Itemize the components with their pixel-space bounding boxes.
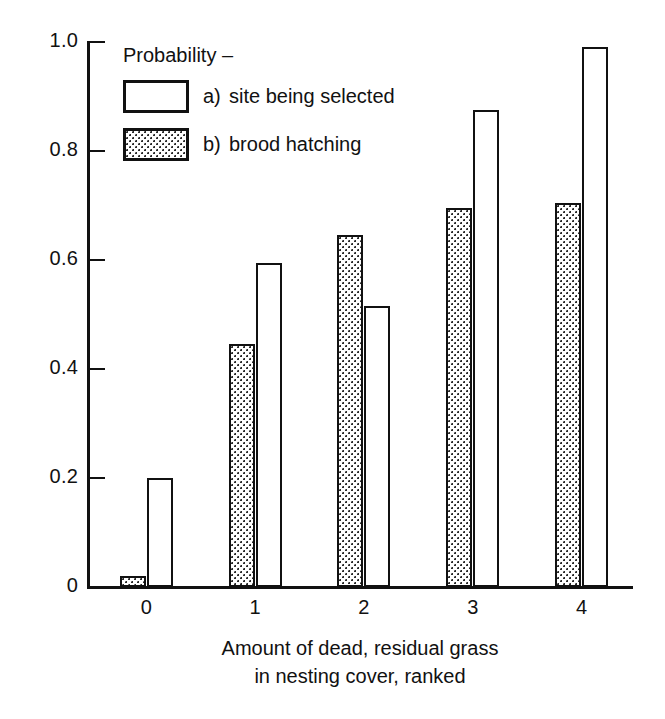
legend-swatch-stippled-box [123, 128, 189, 161]
y-tick-label: 0.8 [0, 138, 78, 161]
bar-site-being-selected-1 [256, 263, 282, 587]
y-tick-label: 0.2 [0, 465, 78, 488]
x-tick-label: 4 [552, 596, 612, 619]
bar-brood-hatching-1 [229, 344, 255, 587]
bar-brood-hatching-4 [555, 203, 581, 587]
x-tick-label: 2 [334, 596, 394, 619]
y-tick-label: 0.4 [0, 356, 78, 379]
chart-legend: Probability – a)site being selected b)br… [123, 44, 453, 174]
legend-text-b: brood hatching [229, 133, 361, 155]
bar-brood-hatching-3 [446, 208, 472, 587]
y-tick-label: 0 [0, 574, 78, 597]
legend-label-site-being-selected: a)site being selected [203, 85, 395, 108]
x-tick-label: 1 [225, 596, 285, 619]
legend-entry-brood-hatching: b)brood hatching [123, 126, 453, 162]
x-axis-label-line2: in nesting cover, ranked [88, 662, 632, 690]
legend-text-a: site being selected [229, 85, 395, 107]
bar-brood-hatching-0 [120, 576, 146, 587]
bar-site-being-selected-3 [473, 110, 499, 587]
bar-site-being-selected-2 [364, 306, 390, 587]
y-tick-label: 0.6 [0, 247, 78, 270]
legend-label-brood-hatching: b)brood hatching [203, 133, 361, 156]
bar-site-being-selected-0 [147, 478, 173, 587]
legend-marker-b: b) [203, 133, 229, 156]
x-tick-label: 0 [116, 596, 176, 619]
legend-swatch-white-box [123, 80, 189, 113]
bar-chart-figure: 00.20.40.60.81.0 01234 Probability – a)s… [0, 0, 665, 719]
x-axis-label: Amount of dead, residual grass in nestin… [88, 634, 632, 690]
legend-entry-site-being-selected: a)site being selected [123, 78, 453, 114]
legend-title: Probability – [123, 44, 453, 67]
bar-site-being-selected-4 [582, 47, 608, 587]
y-tick-label: 1.0 [0, 29, 78, 52]
legend-marker-a: a) [203, 85, 229, 108]
x-tick-label: 3 [443, 596, 503, 619]
bar-brood-hatching-2 [337, 235, 363, 587]
x-axis-label-line1: Amount of dead, residual grass [88, 634, 632, 662]
